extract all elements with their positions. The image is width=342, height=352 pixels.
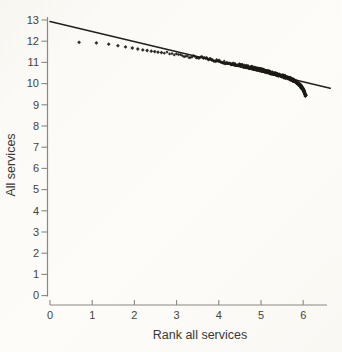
y-axis-title: All services — [4, 133, 18, 196]
x-tick-label: 3 — [174, 309, 180, 321]
y-tick-label: 8 — [33, 120, 39, 132]
y-tick-label: 1 — [33, 268, 39, 280]
axes — [48, 17, 328, 305]
scatter-point — [160, 51, 164, 55]
x-axis-ticks: 0123456 — [47, 300, 306, 321]
scatter-point — [141, 48, 145, 52]
scatter-point — [130, 46, 134, 50]
rank-scatter-plot: 012345678910111213 0123456 All services … — [0, 0, 342, 352]
y-tick-label: 4 — [33, 205, 39, 217]
scatter-point — [95, 41, 99, 45]
scatter-point — [77, 40, 81, 44]
x-tick-label: 1 — [89, 309, 95, 321]
scatter-point — [124, 45, 128, 49]
scatter-point — [136, 47, 140, 51]
y-tick-label: 5 — [33, 183, 39, 195]
scatter-point — [107, 42, 111, 46]
scatter-point — [153, 50, 157, 54]
y-tick-label: 7 — [33, 141, 39, 153]
y-axis-ticks: 012345678910111213 — [27, 14, 48, 302]
scatter-points — [77, 40, 308, 98]
y-tick-label: 13 — [27, 14, 39, 26]
y-tick-label: 12 — [27, 35, 39, 47]
scatter-point — [145, 49, 149, 53]
scanned-figure-page: ″ ″ ″ 012345678910111213 0123456 All ser… — [0, 0, 342, 352]
y-tick-label: 2 — [33, 247, 39, 259]
x-axis-title: Rank all services — [153, 328, 247, 342]
x-tick-label: 2 — [131, 309, 137, 321]
y-tick-label: 9 — [33, 99, 39, 111]
x-tick-label: 6 — [300, 309, 306, 321]
scatter-point — [116, 44, 120, 48]
y-tick-label: 0 — [33, 289, 39, 301]
y-tick-label: 10 — [27, 77, 39, 89]
x-tick-label: 0 — [47, 309, 53, 321]
y-tick-label: 6 — [33, 162, 39, 174]
x-tick-label: 5 — [258, 309, 264, 321]
x-tick-label: 4 — [216, 309, 222, 321]
y-tick-label: 3 — [33, 226, 39, 238]
scatter-point — [149, 49, 153, 53]
y-tick-label: 11 — [28, 56, 39, 68]
scatter-point — [156, 50, 160, 54]
